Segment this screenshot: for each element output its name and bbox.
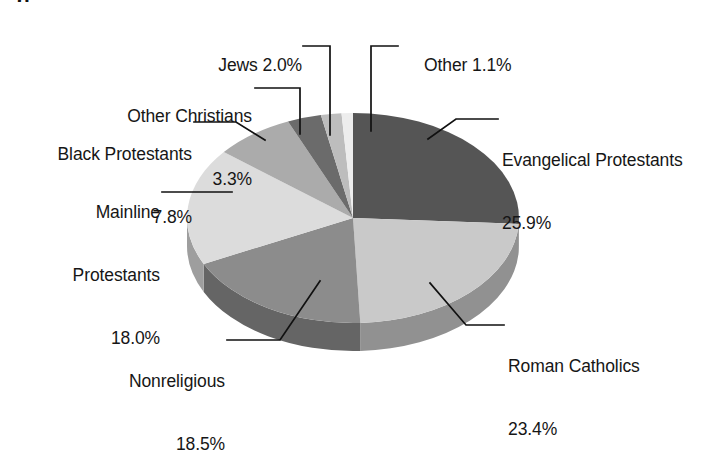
label-nonreligious-pct: 18.5% [60,434,225,454]
label-other-text: Other 1.1% [424,55,512,75]
label-mainline-protestants-name-1: Mainline [10,202,160,223]
label-evangelical-protestants-name: Evangelical Protestants [502,150,728,171]
label-nonreligious: Nonreligious 18.5% [60,329,225,454]
label-mainline-protestants-name-2: Protestants [10,265,160,286]
label-roman-catholics-name: Roman Catholics [508,356,708,377]
label-roman-catholics: Roman Catholics 23.4% [508,314,708,454]
slice-evangelical-protestants [353,113,519,224]
label-nonreligious-name: Nonreligious [60,371,225,392]
slice-roman-catholics [353,218,519,323]
label-evangelical-protestants: Evangelical Protestants 25.9% [502,108,728,276]
label-evangelical-protestants-pct: 25.9% [502,213,728,234]
label-roman-catholics-pct: 23.4% [508,419,708,440]
label-other: Other 1.1% [405,34,565,97]
